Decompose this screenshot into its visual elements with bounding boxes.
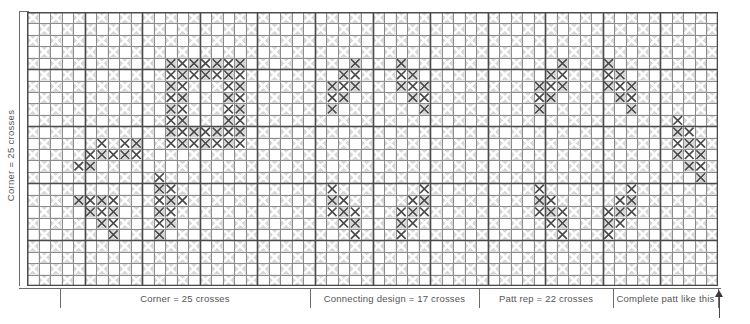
left-axis-label-wrap: Corner = 25 crosses bbox=[0, 100, 20, 220]
repeat-direction-arrow-icon bbox=[714, 288, 726, 318]
pattern-chart-page: Corner = 25 crosses Corner = 25 crosses … bbox=[0, 0, 750, 324]
arrow-shaft bbox=[719, 294, 720, 318]
bottom-axis-line bbox=[19, 288, 721, 289]
arrow-head bbox=[715, 290, 723, 297]
left-axis-label: Corner = 25 crosses bbox=[5, 96, 16, 216]
segment-label-complete: Complete patt like this bbox=[613, 293, 718, 304]
stitch-grid-canvas[interactable] bbox=[27, 12, 718, 286]
segment-label-connecting: Connecting design = 17 crosses bbox=[310, 293, 479, 304]
stitch-grid[interactable] bbox=[27, 12, 718, 286]
segment-label-pattern-repeat: Patt rep = 22 crosses bbox=[479, 293, 613, 304]
segment-label-corner: Corner = 25 crosses bbox=[60, 293, 310, 304]
